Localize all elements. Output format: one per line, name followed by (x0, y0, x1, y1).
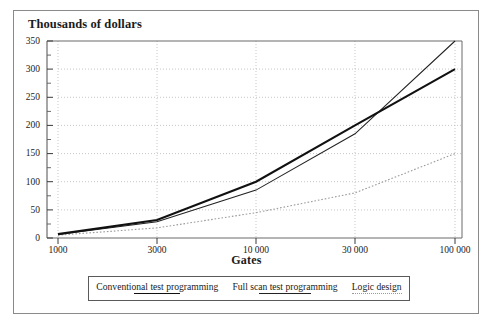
x-axis-ticks (58, 238, 455, 244)
legend-label-conventional: Conventional test programming (96, 281, 218, 292)
series-line-full-scan (58, 41, 455, 235)
legend-swatch-conventional (134, 293, 180, 297)
gridlines-vertical (58, 41, 455, 238)
figure-container: Thousands of dollars (0, 0, 493, 324)
chart-legend: Conventional test programming Full scan … (88, 276, 410, 301)
legend-item-conventional: Conventional test programming (96, 281, 218, 297)
legend-swatch-logic-design (352, 293, 402, 297)
axes-spines (47, 41, 462, 238)
y-tick-label-50: 50 (6, 205, 40, 215)
y-tick-label-300: 300 (6, 64, 40, 74)
series-line-logic-design (58, 154, 455, 236)
y-tick-label-100: 100 (6, 177, 40, 187)
series-line-conventional (58, 69, 455, 234)
y-tick-label-0: 0 (6, 233, 40, 243)
y-tick-label-200: 200 (6, 120, 40, 130)
y-tick-label-150: 150 (6, 148, 40, 158)
y-tick-label-250: 250 (6, 92, 40, 102)
legend-swatch-full-scan (259, 293, 311, 297)
y-tick-label-350: 350 (6, 36, 40, 46)
legend-label-logic-design: Logic design (352, 281, 402, 292)
legend-label-full-scan: Full scan test programming (232, 281, 337, 292)
legend-item-logic-design: Logic design (352, 281, 402, 297)
legend-item-full-scan: Full scan test programming (232, 281, 337, 297)
x-axis-title: Gates (0, 253, 493, 268)
